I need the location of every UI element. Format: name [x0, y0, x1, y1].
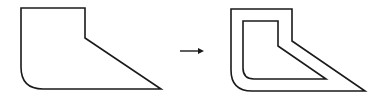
diagram-svg	[0, 0, 385, 101]
arrow-head-icon	[198, 48, 204, 54]
source-shape	[21, 8, 161, 89]
result-inner-shape	[243, 21, 326, 79]
diagram-canvas	[0, 0, 385, 101]
